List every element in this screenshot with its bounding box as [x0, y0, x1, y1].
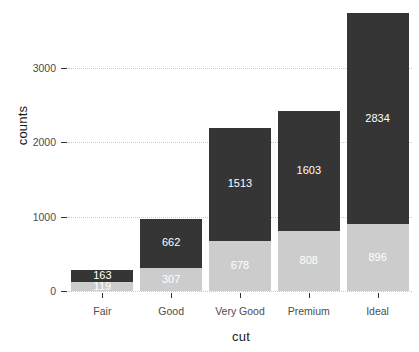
- bar-segment-upper[interactable]: 1513: [209, 128, 271, 241]
- y-tick-label: 3000: [8, 63, 56, 74]
- y-tick-mark: [61, 142, 67, 143]
- bar-segment-lower[interactable]: 896: [347, 224, 409, 291]
- bar-value-label-upper: 1603: [278, 165, 340, 176]
- bar-value-label-lower: 678: [209, 260, 271, 271]
- bar-value-label-upper: 163: [71, 270, 133, 281]
- x-tick-label-ideal: Ideal: [343, 306, 412, 317]
- x-tick-mark: [102, 293, 103, 298]
- bar-ideal[interactable]: 8962834: [347, 13, 409, 291]
- x-tick-label-premium: Premium: [274, 306, 343, 317]
- bar-segment-upper[interactable]: 2834: [347, 13, 409, 224]
- y-tick-mark: [61, 68, 67, 69]
- x-tick-mark: [171, 293, 172, 298]
- bar-value-label-lower: 808: [278, 255, 340, 266]
- x-tick-label-very-good: Very Good: [206, 306, 275, 317]
- bar-premium[interactable]: 8081603: [278, 111, 340, 291]
- x-tick-mark: [378, 293, 379, 298]
- bar-value-label-upper: 1513: [209, 178, 271, 189]
- bar-good[interactable]: 307662: [140, 219, 202, 291]
- bar-chart: counts 0100020003000 1191633076626781513…: [0, 0, 419, 352]
- bar-fair[interactable]: 119163: [71, 270, 133, 291]
- y-tick-label: 0: [8, 286, 56, 297]
- bar-segment-upper[interactable]: 163: [71, 270, 133, 282]
- bar-segment-lower[interactable]: 808: [278, 231, 340, 291]
- bar-segment-upper[interactable]: 662: [140, 219, 202, 268]
- bar-value-label-upper: 2834: [347, 113, 409, 124]
- x-tick-label-good: Good: [137, 306, 206, 317]
- y-tick-label: 2000: [8, 137, 56, 148]
- x-tick-mark: [240, 293, 241, 298]
- bar-value-label-lower: 896: [347, 252, 409, 263]
- bar-very-good[interactable]: 6781513: [209, 128, 271, 291]
- bar-segment-lower[interactable]: 307: [140, 268, 202, 291]
- bar-value-label-lower: 119: [71, 281, 133, 292]
- bar-value-label-upper: 662: [140, 237, 202, 248]
- bar-segment-lower[interactable]: 678: [209, 241, 271, 291]
- y-tick-label: 1000: [8, 212, 56, 223]
- y-tick-mark: [61, 291, 67, 292]
- x-tick-mark: [309, 293, 310, 298]
- y-tick-mark: [61, 217, 67, 218]
- x-tick-label-fair: Fair: [68, 306, 137, 317]
- plot-panel: 119163307662678151380816038962834: [68, 8, 412, 291]
- y-axis-title: counts: [15, 82, 30, 170]
- bar-segment-lower[interactable]: 119: [71, 282, 133, 291]
- bar-value-label-lower: 307: [140, 274, 202, 285]
- x-axis-title: cut: [72, 329, 410, 344]
- bar-segment-upper[interactable]: 1603: [278, 111, 340, 230]
